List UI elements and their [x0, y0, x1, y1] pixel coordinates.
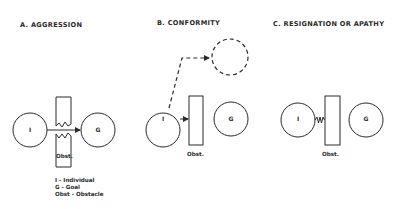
legend-item-individual: I - Individual	[55, 177, 104, 184]
panel-a-obstacle-label: Obst.	[56, 153, 73, 159]
panel-a-individual-label: I	[20, 126, 40, 133]
legend-item-obstacle: Obst - Obstacle	[55, 191, 104, 198]
panel-a-obstacle-top	[56, 97, 71, 127]
panel-c-title: C. RESIGNATION OR APATHY	[273, 20, 384, 28]
panel-a-goal-label: G	[88, 126, 108, 133]
panel-b-substitute-goal-dashed-circle	[212, 39, 248, 75]
panel-c-obstacle	[325, 96, 340, 145]
panel-c-squiggle-icon	[315, 117, 325, 123]
panel-b-obstacle-label: Obst.	[187, 151, 204, 157]
panel-c-individual-label: I	[288, 115, 308, 122]
panel-b-graphic	[146, 39, 248, 147]
legend-item-goal: G - Goal	[55, 184, 104, 191]
panel-a-obstacle-bottom	[56, 133, 71, 167]
panel-c-goal-label: G	[356, 115, 376, 122]
panel-b-title: B. CONFORMITY	[157, 19, 220, 27]
panel-b-goal-label: G	[221, 115, 241, 122]
panel-a-title: A. AGGRESSION	[20, 21, 82, 29]
panel-c-obstacle-label: Obst.	[322, 151, 339, 157]
legend: I - Individual G - Goal Obst - Obstacle	[55, 177, 104, 198]
panel-b-individual-label: I	[153, 115, 173, 122]
panel-b-obstacle	[189, 96, 203, 145]
